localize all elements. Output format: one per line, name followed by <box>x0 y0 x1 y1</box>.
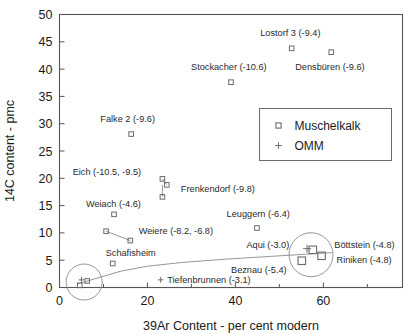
y-tick-label-0: 0 <box>46 281 53 295</box>
y-tick-label-45: 45 <box>39 35 53 49</box>
y-tick-label-10: 10 <box>39 226 53 240</box>
y-tick-label-50: 50 <box>39 8 53 22</box>
y-tick-label-30: 30 <box>39 117 53 131</box>
y-tick-label-15: 15 <box>39 199 53 213</box>
legend-label-muschelkalk: Muschelkalk <box>295 119 362 133</box>
annotation-tiefenbrunnen-3-1: Tiefenbrunnen (-3.1) <box>167 275 250 285</box>
annotation-densb-ren-9-6: Densbüren (-9.6) <box>295 62 364 72</box>
annotation-stockacher-10-6: Stockacher (-10.6) <box>191 62 267 72</box>
chart-svg: 05101520253035404550020406039Ar Content … <box>0 0 418 334</box>
annotation-riniken-4-8: Riniken (-4.8) <box>337 255 392 265</box>
annotation-leuggern-6-4: Leuggern (-6.4) <box>227 209 290 219</box>
legend-label-omm: OMM <box>295 139 324 153</box>
y-tick-label-25: 25 <box>39 145 53 159</box>
y-axis-title: 14C content - pmc <box>3 100 17 202</box>
y-tick-label-40: 40 <box>39 63 53 77</box>
y-tick-label-5: 5 <box>46 254 53 268</box>
annotation-weiere-8-2-6-8: Weiere (-8.2, -6.8) <box>139 226 213 236</box>
annotation-beznau-5-4: Beznau (-5.4) <box>231 265 287 275</box>
annotation-lostorf-3-9-4: Lostorf 3 (-9.4) <box>260 28 320 38</box>
scatter-chart-figure: 05101520253035404550020406039Ar Content … <box>0 0 418 334</box>
annotation-schafisheim: Schafisheim <box>106 248 156 258</box>
annotation-frenkendorf-9-8: Frenkendorf (-9.8) <box>181 184 255 194</box>
x-tick-label-60: 60 <box>316 294 330 308</box>
annotation-b-ttstein-4-8: Böttstein (-4.8) <box>334 240 394 250</box>
annotation-aqui-3-0: Aqui (-3.0) <box>246 240 289 250</box>
annotation-weiach-4-6: Weiach (-4.6) <box>86 199 141 209</box>
y-tick-label-35: 35 <box>39 90 53 104</box>
legend-box <box>260 109 392 161</box>
x-tick-label-40: 40 <box>228 294 242 308</box>
y-tick-label-20: 20 <box>39 172 53 186</box>
annotation-eich-10-5-9-5: Eich (-10.5, -9.5) <box>73 167 141 177</box>
x-axis-title: 39Ar Content - per cent modern <box>143 319 319 333</box>
annotation-falke-2-9-6: Falke 2 (-9.6) <box>100 114 155 124</box>
x-tick-label-20: 20 <box>140 294 154 308</box>
x-tick-label-0: 0 <box>56 294 63 308</box>
